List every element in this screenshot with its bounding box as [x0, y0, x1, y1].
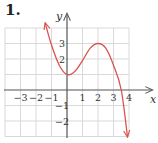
y-tick-label: −2 [55, 116, 69, 127]
x-tick-label: −3 [14, 92, 28, 103]
x-tick-label: 1 [80, 92, 86, 103]
x-tick-label: 4 [126, 92, 132, 103]
x-axis-label: x [150, 93, 157, 106]
y-tick-label: 2 [59, 54, 65, 65]
x-tick-label: 3 [111, 92, 117, 103]
y-axis-label: y [55, 10, 63, 23]
x-tick-labels: −3−2−11234 [14, 92, 133, 103]
y-tick-label: −1 [55, 100, 69, 111]
x-tick-label: 2 [95, 92, 101, 103]
function-graph: x y −3−2−11234 32−1−2 [0, 0, 158, 143]
y-tick-label: 3 [59, 38, 65, 49]
x-tick-label: −2 [29, 92, 43, 103]
